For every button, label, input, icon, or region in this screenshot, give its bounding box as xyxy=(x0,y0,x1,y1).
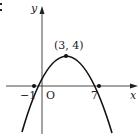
parabola-diagram: y x O (3, 4) −1 7 xyxy=(0,0,140,139)
y-axis-arrow-icon xyxy=(40,6,45,14)
y-axis xyxy=(40,6,45,134)
vertex-point xyxy=(64,54,68,58)
x-axis-label: x xyxy=(130,89,137,102)
left-root-point xyxy=(32,84,36,88)
corner-mark xyxy=(0,3,2,11)
left-root-label: −1 xyxy=(20,89,36,102)
vertex-label: (3, 4) xyxy=(54,39,84,52)
x-axis xyxy=(6,84,138,89)
x-axis-arrow-icon xyxy=(130,84,138,89)
origin-label: O xyxy=(46,89,55,102)
y-axis-label: y xyxy=(30,2,38,15)
right-root-label: 7 xyxy=(91,89,98,102)
right-root-point xyxy=(97,84,101,88)
